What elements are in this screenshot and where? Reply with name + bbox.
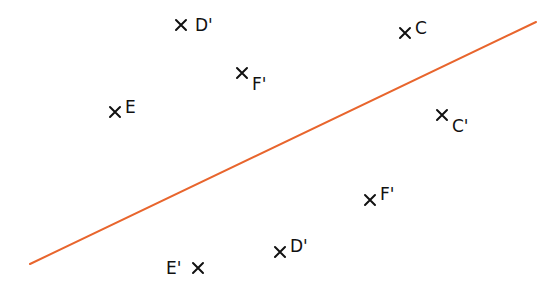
reflection-diagram: D'CF'EC'F'D'E': [0, 0, 546, 299]
cross-marker-icon: [400, 28, 410, 38]
point-e-prime: E': [166, 258, 203, 278]
point-label: F': [380, 184, 394, 204]
point-label: F': [252, 74, 266, 94]
cross-marker-icon: [275, 247, 285, 257]
point-c: C: [400, 18, 427, 38]
cross-marker-icon: [237, 68, 247, 78]
point-label: D': [290, 236, 308, 256]
cross-marker-icon: [365, 195, 375, 205]
cross-marker-icon: [176, 20, 186, 30]
point-label: E: [125, 97, 136, 117]
point-d-prime-lower: D': [275, 236, 308, 257]
point-label: D': [195, 15, 213, 35]
point-f-prime-lower: F': [365, 184, 394, 205]
cross-marker-icon: [437, 110, 447, 120]
point-label: C: [415, 18, 427, 38]
points-layer: D'CF'EC'F'D'E': [110, 15, 469, 278]
point-f-prime-upper: F': [237, 68, 266, 94]
point-label: E': [166, 258, 181, 278]
point-c-prime: C': [437, 110, 469, 136]
cross-marker-icon: [110, 107, 120, 117]
cross-marker-icon: [193, 263, 203, 273]
point-e: E: [110, 97, 136, 117]
mirror-line: [30, 22, 536, 264]
point-d-prime-top: D': [176, 15, 213, 35]
point-label: C': [452, 116, 469, 136]
